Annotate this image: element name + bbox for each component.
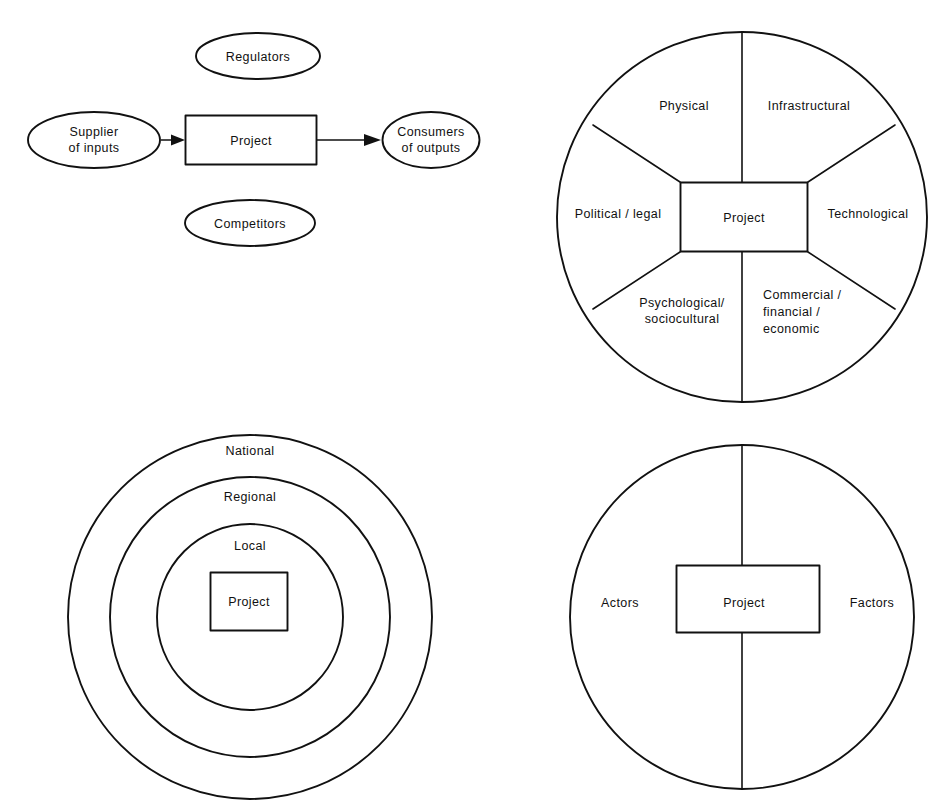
supplier-label-line1: Supplier [69, 125, 118, 139]
node-consumers-of-outputs[interactable]: Consumers of outputs [383, 112, 480, 168]
half-factors-label: Factors [850, 596, 894, 610]
ring-regional-label: Regional [224, 490, 277, 504]
arrow-project-to-consumers-head [364, 134, 381, 146]
environment-project-label: Project [723, 211, 765, 225]
node-project-actors-factors-center[interactable]: Project [677, 566, 820, 633]
node-regulators[interactable]: Regulators [196, 33, 320, 79]
sector-commercial-financial-economic-label-line3: economic [763, 322, 820, 336]
node-project-spatial-center[interactable]: Project [211, 573, 288, 631]
panel-project-and-stakeholders: Regulators Supplier of inputs Project [28, 33, 480, 246]
panel-project-actors-factors: Actors Factors Project [570, 445, 914, 789]
sector-technological[interactable]: Technological [828, 207, 909, 221]
competitors-label: Competitors [214, 217, 286, 231]
sector-psychological-sociocultural-label-line1: Psychological/ [639, 296, 725, 310]
four-panel-project-environment-diagram: Regulators Supplier of inputs Project [0, 0, 952, 810]
ring-local-label: Local [234, 539, 266, 553]
consumers-label-line2: of outputs [402, 141, 461, 155]
spatial-project-label: Project [228, 595, 270, 609]
node-project-flow[interactable]: Project [186, 116, 317, 165]
sector-technological-label: Technological [828, 207, 909, 221]
figure-root: Regulators Supplier of inputs Project [0, 0, 952, 810]
node-project-environment-center[interactable]: Project [681, 183, 808, 252]
project-label: Project [230, 134, 272, 148]
sector-commercial-financial-economic-label-line1: Commercial / [763, 288, 842, 302]
node-competitors[interactable]: Competitors [185, 200, 315, 246]
supplier-ellipse-shape [28, 112, 160, 168]
ring-national-label: National [225, 444, 274, 458]
panel-project-spatial-levels: National Regional Local Project [68, 435, 432, 799]
supplier-label-line2: of inputs [69, 141, 120, 155]
sector-physical-label: Physical [659, 99, 709, 113]
consumers-label-line1: Consumers [397, 125, 465, 139]
sector-political-legal[interactable]: Political / legal [575, 207, 662, 221]
arrow-supplier-to-project-head [171, 135, 185, 146]
half-actors-label: Actors [601, 596, 639, 610]
regulators-label: Regulators [226, 50, 290, 64]
sector-political-legal-label: Political / legal [575, 207, 662, 221]
actors-factors-project-label: Project [723, 596, 765, 610]
arrow-supplier-to-project [161, 135, 185, 146]
arrow-project-to-consumers [317, 134, 381, 146]
panel-project-environment-sectors: Project Physical Infrastructural Politic… [557, 32, 927, 402]
consumers-ellipse-shape [383, 112, 480, 168]
node-supplier-of-inputs[interactable]: Supplier of inputs [28, 112, 160, 168]
sector-infrastructural[interactable]: Infrastructural [768, 99, 850, 113]
sector-psychological-sociocultural-label-line2: sociocultural [645, 312, 720, 326]
sector-infrastructural-label: Infrastructural [768, 99, 850, 113]
sector-physical[interactable]: Physical [659, 99, 709, 113]
sector-commercial-financial-economic-label-line2: financial / [763, 305, 820, 319]
